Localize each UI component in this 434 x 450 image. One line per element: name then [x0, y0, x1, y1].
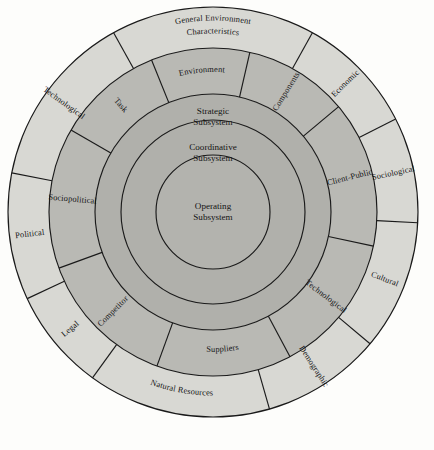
label-strategic-line1: Strategic [197, 106, 229, 116]
organizational-wheel-diagram: General EnvironmentCharacteristicsEconom… [0, 0, 434, 450]
label-coordinative-line1: Coordinative [189, 142, 236, 152]
wheel-svg: General EnvironmentCharacteristicsEconom… [0, 0, 434, 450]
label-operating-line2: Subsystem [193, 212, 232, 222]
label-operating-line1: Operating [195, 201, 232, 211]
label-strategic-line2: Subsystem [193, 117, 232, 127]
label-coordinative-line2: Subsystem [193, 153, 232, 163]
